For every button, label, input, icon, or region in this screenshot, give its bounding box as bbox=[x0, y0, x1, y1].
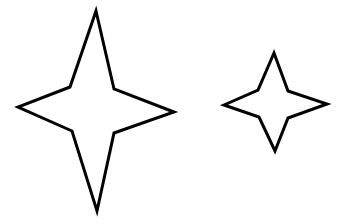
two-stars-figure bbox=[0, 0, 341, 224]
figure-canvas bbox=[0, 0, 341, 224]
